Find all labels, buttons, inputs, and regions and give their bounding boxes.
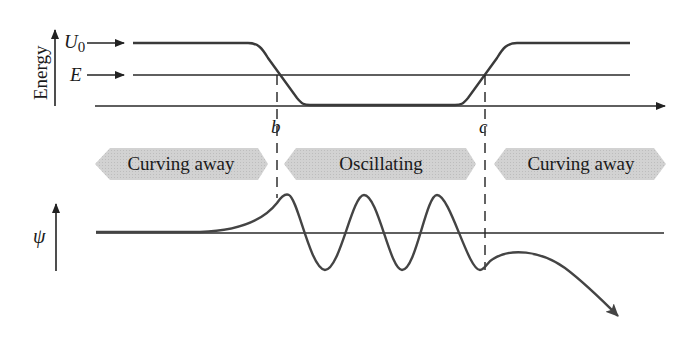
potential-curve bbox=[133, 43, 630, 105]
turning-point-c: c bbox=[479, 75, 488, 270]
region-banner-right: Curving away bbox=[494, 148, 666, 180]
region-label-middle: Oscillating bbox=[339, 153, 423, 174]
psi-axis-label: ψ bbox=[33, 225, 46, 248]
turning-point-label-b: b bbox=[271, 116, 281, 137]
e-label: E bbox=[69, 64, 82, 85]
region-label-left: Curving away bbox=[127, 153, 235, 174]
turning-point-b: b bbox=[271, 75, 281, 198]
region-banner-middle: Oscillating bbox=[284, 148, 476, 180]
region-label-right: Curving away bbox=[527, 153, 635, 174]
wavefunction-curve bbox=[96, 194, 618, 316]
potential-well-diagram: Energy U0 E b c Curving away Oscillating… bbox=[0, 0, 688, 362]
energy-panel: Energy U0 E bbox=[30, 30, 665, 106]
region-banner-left: Curving away bbox=[95, 148, 268, 180]
u0-label: U0 bbox=[64, 31, 85, 55]
wavefunction-panel: ψ bbox=[33, 194, 664, 316]
energy-axis-label: Energy bbox=[30, 45, 51, 100]
turning-point-label-c: c bbox=[479, 116, 488, 137]
